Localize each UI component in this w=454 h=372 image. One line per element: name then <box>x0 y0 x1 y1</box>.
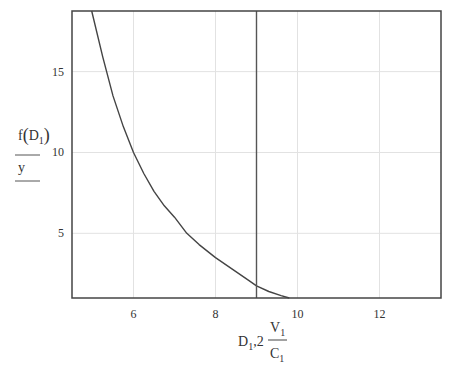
y-axis-label: f(D1) y <box>15 125 50 181</box>
y-label-f: f(D1) <box>18 125 50 146</box>
chart: 681012 51015 f(D1) y D1,2 V1 C1 <box>0 0 454 372</box>
y-tick-label: 10 <box>52 145 64 159</box>
x-tick-label: 10 <box>292 307 304 321</box>
x-tick-label: 12 <box>374 307 386 321</box>
series-layer <box>92 11 290 298</box>
x-tick-label: 6 <box>131 307 137 321</box>
x-label-numerator: V1 <box>270 320 285 338</box>
y-tick-label: 15 <box>52 65 64 79</box>
x-label-denominator: C1 <box>270 346 284 364</box>
y-label-y: y <box>18 160 25 175</box>
x-tick-labels: 681012 <box>131 307 386 321</box>
x-axis-label: D1,2 V1 C1 <box>238 320 287 364</box>
y-tick-label: 5 <box>58 226 64 240</box>
series-line-f <box>92 11 290 298</box>
x-label-d: D1,2 <box>238 334 264 352</box>
x-tick-label: 8 <box>213 307 219 321</box>
y-tick-labels: 51015 <box>52 65 64 241</box>
